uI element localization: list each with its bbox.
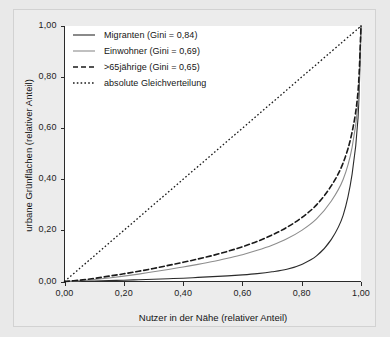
legend-item-2: >65jährige (Gini = 0,65) [72,59,302,75]
y-axis-ticks [61,27,65,283]
legend-swatch-icon-0 [72,30,96,40]
x-tick-label-0: 0,00 [45,288,85,298]
x-axis-title: Nutzer in der Nähe (relativer Anteil) [64,312,362,323]
legend-swatch-icon-1 [72,46,96,56]
figure-container: 0,000,200,400,600,801,00 0,000,200,400,6… [0,0,390,337]
x-tick-label-2: 0,40 [163,288,203,298]
legend-item-0: Migranten (Gini = 0,84) [72,27,302,43]
x-tick-label-1: 0,20 [104,288,144,298]
y-tick-label-0: 0,00 [17,276,57,286]
chart-legend: Migranten (Gini = 0,84)Einwohner (Gini =… [72,27,302,91]
legend-label-2: >65jährige (Gini = 0,65) [104,62,200,72]
legend-item-3: absolute Gleichverteilung [72,75,302,91]
y-tick-label-5: 1,00 [17,20,57,30]
x-tick-label-3: 0,60 [222,288,262,298]
legend-label-0: Migranten (Gini = 0,84) [104,30,197,40]
y-axis-title: urbane Grünflächen (relativer Anteil) [23,56,34,256]
legend-swatch-icon-3 [72,78,96,88]
legend-label-1: Einwohner (Gini = 0,69) [104,46,200,56]
legend-label-3: absolute Gleichverteilung [104,78,206,88]
x-tick-label-4: 0,80 [282,288,322,298]
x-axis-ticks [66,282,362,286]
legend-swatch-icon-2 [72,62,96,72]
x-tick-label-5: 1,00 [341,288,381,298]
legend-item-1: Einwohner (Gini = 0,69) [72,43,302,59]
